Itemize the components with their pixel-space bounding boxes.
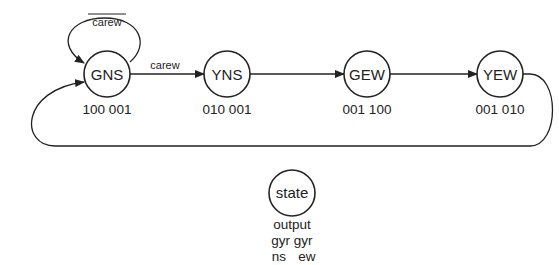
edge-label-carew: carew	[150, 59, 179, 71]
state-output: 100 001	[83, 102, 132, 117]
state-output: 001 100	[343, 102, 392, 117]
legend-ew-label: ew	[298, 249, 316, 264]
state-yew: YEW 001 010	[476, 51, 525, 117]
state-gns: GNS 100 001	[83, 51, 132, 117]
state-label: GEW	[349, 66, 386, 83]
legend-gyr-label: gyr gyr	[271, 233, 313, 248]
state-label: GNS	[91, 66, 124, 83]
state-label: YEW	[483, 66, 518, 83]
legend: state output gyr gyr ns ew	[269, 170, 316, 264]
legend-state-label: state	[276, 184, 309, 201]
legend-output-label: output	[273, 217, 311, 232]
state-yns: YNS 010 001	[203, 51, 252, 117]
legend-ns-label: ns	[272, 249, 287, 264]
state-diagram: carew carew GNS 100 001 YNS 010 001 GEW …	[0, 0, 559, 265]
self-loop-label: carew	[92, 16, 121, 28]
edge-gns-yns: carew	[130, 59, 204, 74]
state-gew: GEW 001 100	[343, 51, 392, 117]
state-label: YNS	[212, 66, 243, 83]
state-output: 010 001	[203, 102, 252, 117]
state-output: 001 010	[476, 102, 525, 117]
